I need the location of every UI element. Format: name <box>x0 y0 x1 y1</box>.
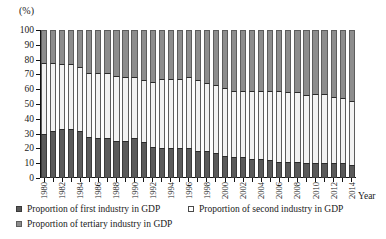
y-axis-tick-label: 60 <box>25 85 35 95</box>
bar[interactable] <box>104 30 110 178</box>
bar[interactable] <box>231 30 237 178</box>
bar-segment-first-industry <box>86 137 92 178</box>
bar-segment-first-industry <box>340 163 346 178</box>
bar[interactable] <box>186 30 192 178</box>
legend-item-first-industry[interactable]: Proportion of first industry in GDP <box>16 204 188 214</box>
bar[interactable] <box>113 30 119 178</box>
bar[interactable] <box>95 30 101 178</box>
bar[interactable] <box>68 30 74 178</box>
bar[interactable] <box>204 30 210 178</box>
bar-segment-first-industry <box>213 153 219 178</box>
bar-segment-second-industry <box>240 91 246 158</box>
bar-segment-tertiary-industry <box>349 30 355 101</box>
bar[interactable] <box>77 30 83 178</box>
bar-segment-tertiary-industry <box>258 30 264 91</box>
bar-segment-tertiary-industry <box>59 30 65 64</box>
bar[interactable] <box>349 30 355 178</box>
y-axis-tick-label: 90 <box>25 40 35 50</box>
bar[interactable] <box>59 30 65 178</box>
bar-segment-second-industry <box>303 95 309 163</box>
bar-segment-tertiary-industry <box>294 30 300 92</box>
bar-segment-first-industry <box>276 162 282 178</box>
bar[interactable] <box>195 30 201 178</box>
bar-segment-first-industry <box>68 129 74 178</box>
bar[interactable] <box>122 30 128 178</box>
bar-segment-tertiary-industry <box>331 30 337 97</box>
bar-segment-first-industry <box>312 163 318 178</box>
bar-segment-second-industry <box>249 91 255 159</box>
bar-segment-first-industry <box>240 157 246 178</box>
x-axis-title: Year <box>358 192 376 202</box>
y-axis-tick <box>36 104 40 105</box>
bar-segment-second-industry <box>104 73 110 138</box>
bar-segment-tertiary-industry <box>50 30 56 63</box>
bar-segment-tertiary-industry <box>267 30 273 91</box>
bar-segment-second-industry <box>113 76 119 141</box>
bar[interactable] <box>321 30 327 178</box>
bar[interactable] <box>258 30 264 178</box>
y-axis-tick-label: 100 <box>20 26 34 36</box>
bar-segment-tertiary-industry <box>276 30 282 91</box>
bar-segment-first-industry <box>122 141 128 178</box>
bar[interactable] <box>159 30 165 178</box>
bar-segment-first-industry <box>349 165 355 178</box>
bar[interactable] <box>213 30 219 178</box>
bar[interactable] <box>222 30 228 178</box>
bar[interactable] <box>276 30 282 178</box>
x-axis-tick-label: 2002 <box>239 182 248 199</box>
y-axis-tick-label: 10 <box>25 159 35 169</box>
legend-label-second-industry: Proportion of second industry in GDP <box>199 204 343 214</box>
bar-segment-tertiary-industry <box>195 30 201 80</box>
bar[interactable] <box>86 30 92 178</box>
bar[interactable] <box>285 30 291 178</box>
bar-segment-second-industry <box>204 83 210 151</box>
bar-segment-second-industry <box>186 77 192 148</box>
bar-segment-first-industry <box>294 162 300 178</box>
y-axis-tick <box>36 60 40 61</box>
bar-segment-second-industry <box>177 79 183 149</box>
bar[interactable] <box>340 30 346 178</box>
bar[interactable] <box>240 30 246 178</box>
legend-item-second-industry[interactable]: Proportion of second industry in GDP <box>188 204 343 214</box>
bar-segment-first-industry <box>258 159 264 178</box>
bar-segment-first-industry <box>141 142 147 178</box>
bar-segment-tertiary-industry <box>141 30 147 80</box>
bar[interactable] <box>249 30 255 178</box>
bar-segment-first-industry <box>95 138 101 178</box>
bar[interactable] <box>177 30 183 178</box>
first-industry-swatch <box>16 206 22 212</box>
bar-segment-tertiary-industry <box>150 30 156 82</box>
bar[interactable] <box>150 30 156 178</box>
bar[interactable] <box>294 30 300 178</box>
bar[interactable] <box>41 30 47 178</box>
bar-segment-first-industry <box>50 131 56 178</box>
bar-segment-first-industry <box>150 147 156 178</box>
y-axis-tick-label: 0 <box>29 174 34 184</box>
bar[interactable] <box>331 30 337 178</box>
stacked-bar-chart: (%) 1009080706050403020100 1980198219841… <box>0 0 386 239</box>
bar-segment-second-industry <box>68 64 74 129</box>
bar-segment-first-industry <box>59 129 65 178</box>
y-axis-tick <box>36 45 40 46</box>
bar-segment-tertiary-industry <box>122 30 128 77</box>
bar-segment-second-industry <box>276 91 282 162</box>
bar[interactable] <box>141 30 147 178</box>
x-axis-tick-label: 1980 <box>40 182 49 199</box>
legend-label-tertiary-industry: Proportion of tertiary industry in GDP <box>27 219 172 229</box>
bar[interactable] <box>267 30 273 178</box>
bar-segment-first-industry <box>249 159 255 178</box>
bar-segment-second-industry <box>195 80 201 151</box>
bar[interactable] <box>312 30 318 178</box>
bar[interactable] <box>303 30 309 178</box>
bar[interactable] <box>50 30 56 178</box>
bar-segment-second-industry <box>131 77 137 138</box>
bar-segment-second-industry <box>141 80 147 142</box>
bar-segment-first-industry <box>222 156 228 178</box>
bar[interactable] <box>131 30 137 178</box>
bar-segment-second-industry <box>41 63 47 134</box>
bar-segment-second-industry <box>168 79 174 149</box>
bar[interactable] <box>168 30 174 178</box>
legend-item-tertiary-industry[interactable]: Proportion of tertiary industry in GDP <box>16 219 188 229</box>
bar-segment-tertiary-industry <box>41 30 47 63</box>
x-axis-tick-label: 2006 <box>275 182 284 199</box>
